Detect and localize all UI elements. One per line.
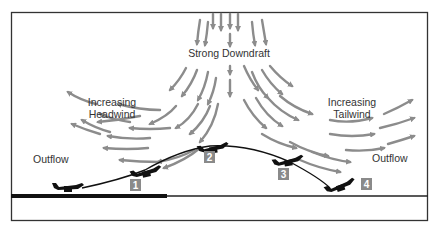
svg-text:3: 3 xyxy=(281,169,287,180)
runway xyxy=(11,194,167,198)
position-badge-1: 1 xyxy=(130,179,141,191)
position-badge-2: 2 xyxy=(204,151,215,163)
svg-text:1: 1 xyxy=(133,180,139,191)
tailwind-label-line1: Increasing xyxy=(328,96,377,108)
position-badge-3: 3 xyxy=(278,168,289,180)
svg-text:2: 2 xyxy=(207,152,213,163)
outflow-right-label: Outflow xyxy=(372,152,408,164)
wind-arrows xyxy=(68,14,414,172)
tailwind-label-line2: Tailwind xyxy=(333,108,371,120)
aircraft-icon xyxy=(130,165,163,180)
outflow-left-label: Outflow xyxy=(33,153,69,165)
svg-text:4: 4 xyxy=(364,179,370,190)
headwind-label-line2: Headwind xyxy=(89,108,136,120)
microburst-diagram: 1 2 3 4 Strong Downdraft Increasing Head… xyxy=(0,0,437,230)
position-badge-4: 4 xyxy=(361,178,372,190)
headwind-label-line1: Increasing xyxy=(88,96,137,108)
strong-downdraft-label: Strong Downdraft xyxy=(188,47,270,59)
aircraft-icon xyxy=(52,183,84,192)
